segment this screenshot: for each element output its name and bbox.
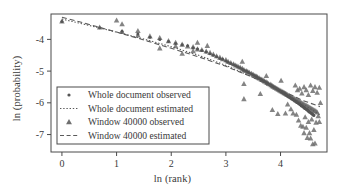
x-tick-label: 3	[223, 158, 228, 169]
legend-label: Whole document observed	[88, 89, 191, 100]
x-axis-label: ln (rank)	[0, 173, 345, 184]
x-tick-label: 0	[59, 158, 64, 169]
data-point-dot	[167, 40, 170, 43]
data-point-dot	[121, 30, 124, 33]
data-point-dot	[227, 61, 230, 64]
legend-label: Window 40000 observed	[88, 116, 184, 127]
y-tick-label: -6	[36, 97, 44, 108]
y-tick-label: -5	[36, 66, 44, 77]
data-point-dot	[209, 52, 212, 55]
data-point-dot	[212, 54, 215, 57]
x-tick-label: 1	[114, 158, 119, 169]
y-tick-label: -7	[36, 129, 44, 140]
data-point-dot	[312, 114, 315, 117]
data-point-dot	[218, 57, 221, 60]
data-point-dot	[60, 20, 63, 23]
legend-label: Whole document estimated	[88, 103, 193, 114]
legend-marker-dot	[67, 93, 70, 96]
x-tick-label: 4	[278, 158, 283, 169]
x-tick-label: 2	[169, 158, 174, 169]
scatter-plot: 01234 -4-5-6-7 Whole document observedWh…	[0, 0, 345, 192]
legend-label: Window 40000 estimated	[88, 130, 186, 141]
data-point-dot	[181, 43, 184, 46]
data-point-dot	[192, 46, 195, 49]
chart-figure: 01234 -4-5-6-7 Whole document observedWh…	[0, 0, 345, 192]
data-point-dot	[215, 55, 218, 58]
data-point-dot	[186, 44, 189, 47]
data-point-dot	[229, 62, 232, 65]
chart-legend: Whole document observedWhole document es…	[57, 87, 209, 144]
y-tick-label: -4	[36, 34, 44, 45]
data-point-dot	[174, 42, 177, 45]
data-point-dot	[158, 38, 161, 41]
data-point-dot	[200, 49, 203, 52]
data-point-dot	[196, 47, 199, 50]
data-point-dot	[136, 32, 139, 35]
y-axis-label: ln (probability)	[11, 29, 22, 149]
data-point-dot	[221, 58, 224, 61]
data-point-dot	[148, 36, 151, 39]
data-point-dot	[205, 51, 208, 54]
